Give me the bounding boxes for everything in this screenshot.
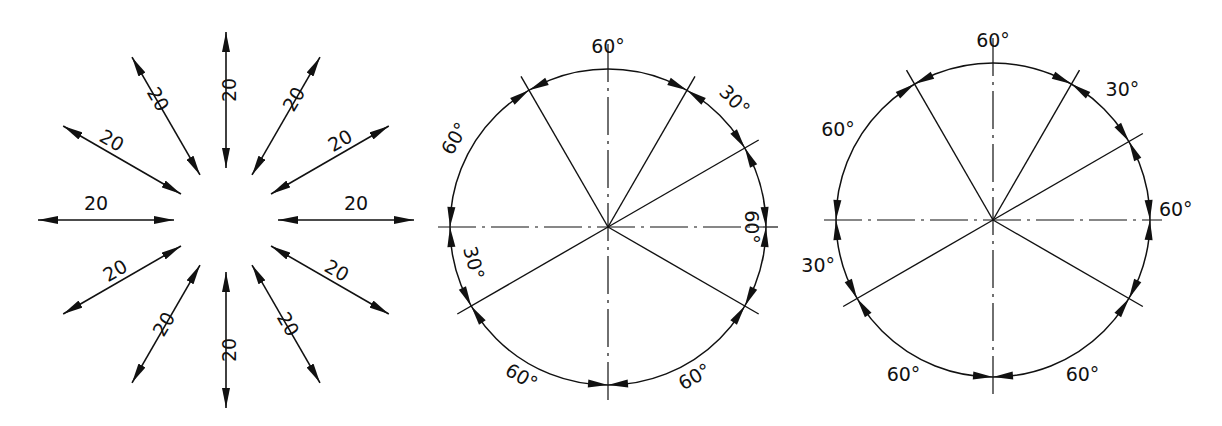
dimension-line	[132, 57, 200, 175]
angle-label-top: 60°	[591, 35, 625, 57]
arrowhead	[915, 72, 935, 84]
radial-line	[843, 220, 993, 307]
arrowhead	[1114, 299, 1129, 318]
dimension-label: 20	[218, 78, 240, 102]
arrowhead	[896, 84, 915, 99]
dimension-label: 20	[96, 125, 128, 156]
angle-label-left-upper: 60°	[436, 118, 472, 158]
arrowhead	[529, 78, 549, 90]
dimension-label: 20	[344, 192, 368, 214]
dimension-label: 20	[148, 308, 179, 340]
radial-line	[993, 134, 1143, 221]
arrowhead	[510, 90, 529, 105]
dimension-line	[271, 246, 389, 314]
dimension-label: 20	[324, 125, 356, 156]
angle-label-right: 60°	[1159, 198, 1193, 220]
arrowhead	[833, 220, 841, 240]
dimension-label: 20	[84, 192, 108, 214]
arrowhead	[447, 227, 455, 247]
angular-dimension-figure-horizontal: 60°30°60°60°60°30°60°	[801, 29, 1192, 398]
radial-line	[907, 70, 994, 220]
dimensioning-diagram: 202020202020202020202020 60°30°60°60°60°…	[0, 0, 1222, 426]
arrowhead	[1145, 200, 1153, 220]
arrowhead	[687, 90, 706, 105]
arrowhead	[1129, 279, 1141, 299]
angle-label-left-upper: 60°	[821, 118, 855, 140]
arrowhead	[1072, 84, 1091, 99]
dimension-label: 20	[143, 83, 174, 115]
radial-line	[608, 76, 695, 227]
radial-line	[608, 140, 759, 227]
angle-label-left-lower: 30°	[801, 254, 835, 276]
arrowhead	[833, 200, 841, 220]
angle-label-top: 60°	[976, 29, 1010, 51]
arrowhead	[471, 306, 486, 325]
dimension-label: 20	[218, 338, 240, 362]
angle-label-lower-right: 60°	[674, 358, 714, 394]
arrowhead	[730, 306, 745, 325]
dimension-line	[252, 57, 320, 175]
radial-dimension-figure: 202020202020202020202020	[38, 32, 414, 408]
arrowhead	[588, 380, 608, 388]
arrowhead	[845, 279, 857, 299]
angle-label-bottom-left: 60°	[502, 358, 542, 394]
angle-label-right: 60°	[741, 210, 763, 244]
arrowhead	[1114, 123, 1129, 142]
arrowhead	[993, 372, 1013, 380]
dimension-line	[63, 246, 181, 314]
radial-line	[608, 227, 759, 314]
arrowhead	[608, 380, 628, 388]
angle-label-upper-right: 30°	[715, 80, 754, 119]
dimension-label: 20	[321, 255, 353, 286]
arrowhead	[730, 129, 745, 148]
radial-line	[993, 70, 1080, 220]
arrowhead	[447, 207, 455, 227]
dimension-label: 20	[273, 308, 304, 340]
arrowhead	[459, 286, 471, 306]
arrowhead	[1145, 220, 1153, 240]
arrowhead	[1129, 142, 1141, 162]
angle-label-bottom-left: 60°	[887, 363, 921, 385]
radial-line	[521, 76, 608, 227]
arrowhead	[1052, 72, 1072, 84]
arrowhead	[745, 148, 757, 168]
angle-label-upper-right: 30°	[1106, 78, 1140, 100]
angle-label-lower-right: 60°	[1066, 363, 1100, 385]
arrowhead	[745, 286, 757, 306]
radial-line	[993, 220, 1143, 307]
arrowhead	[857, 299, 872, 318]
arrowhead	[973, 372, 993, 380]
arrowhead	[667, 78, 687, 90]
dimension-label: 20	[99, 255, 131, 286]
dimension-label: 20	[278, 83, 309, 115]
angle-label-left-lower: 30°	[459, 244, 489, 282]
angular-dimension-figure-aligned: 60°30°60°60°60°30°60°	[436, 35, 778, 406]
